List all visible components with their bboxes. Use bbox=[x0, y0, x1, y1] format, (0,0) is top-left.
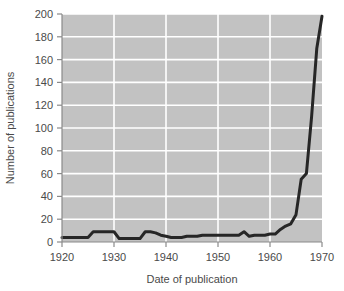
x-axis-tick-label: 1970 bbox=[310, 251, 334, 263]
x-axis-ticks bbox=[62, 242, 322, 247]
y-axis-tick-label: 40 bbox=[41, 190, 53, 202]
x-axis-tick-label: 1930 bbox=[102, 251, 126, 263]
y-axis-tick-label: 140 bbox=[35, 76, 53, 88]
y-axis-tick-label: 0 bbox=[47, 236, 53, 248]
chart-figure: 020406080100120140160180200 192019301940… bbox=[0, 0, 344, 291]
x-axis-tick-label: 1960 bbox=[258, 251, 282, 263]
y-axis-tick-label: 100 bbox=[35, 122, 53, 134]
y-axis-tick-label: 180 bbox=[35, 31, 53, 43]
x-axis-tick-label: 1940 bbox=[154, 251, 178, 263]
y-axis-tick-label: 120 bbox=[35, 99, 53, 111]
y-axis-tick-label: 80 bbox=[41, 145, 53, 157]
x-axis-tick-label: 1950 bbox=[206, 251, 230, 263]
y-axis-title: Number of publications bbox=[4, 71, 16, 184]
y-axis-tick-label: 20 bbox=[41, 213, 53, 225]
x-axis-tick-labels: 192019301940195019601970 bbox=[50, 251, 334, 263]
x-axis-title: Date of publication bbox=[146, 273, 237, 285]
y-axis-ticks bbox=[57, 14, 62, 242]
x-axis-tick-label: 1920 bbox=[50, 251, 74, 263]
publications-line-chart: 020406080100120140160180200 192019301940… bbox=[0, 0, 344, 291]
y-axis-tick-labels: 020406080100120140160180200 bbox=[35, 8, 53, 248]
y-axis-tick-label: 200 bbox=[35, 8, 53, 20]
y-axis-tick-label: 60 bbox=[41, 168, 53, 180]
y-axis-tick-label: 160 bbox=[35, 54, 53, 66]
